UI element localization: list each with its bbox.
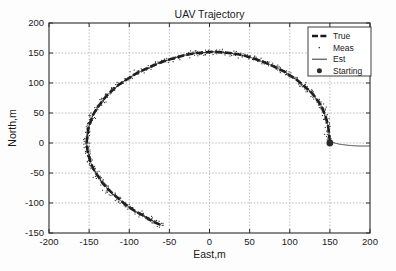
x-tick-label: 150	[322, 236, 338, 247]
measurement-point	[125, 202, 126, 203]
measurement-point	[327, 137, 328, 138]
measurement-point	[88, 160, 89, 161]
measurement-point	[233, 51, 234, 52]
measurement-point	[107, 185, 108, 186]
measurement-point	[94, 117, 95, 118]
measurement-point	[122, 83, 123, 84]
measurement-point	[168, 62, 169, 63]
measurement-point	[115, 194, 116, 195]
measurement-point	[152, 64, 153, 65]
measurement-point	[134, 70, 135, 71]
measurement-point	[89, 151, 90, 152]
x-tick-label: 0	[207, 236, 212, 247]
measurement-point	[92, 120, 93, 121]
measurement-point	[96, 107, 97, 108]
measurement-point	[278, 66, 279, 67]
measurement-point	[238, 57, 239, 58]
measurement-point	[320, 108, 321, 109]
measurement-point	[128, 79, 129, 80]
measurement-point	[261, 58, 262, 59]
measurement-point	[89, 146, 90, 147]
measurement-point	[93, 118, 94, 119]
measurement-point	[90, 165, 91, 166]
measurement-point	[285, 74, 286, 75]
measurement-point	[312, 90, 313, 91]
measurement-point	[261, 63, 262, 64]
measurement-point	[240, 53, 241, 54]
measurement-point	[161, 223, 162, 224]
y-axis-title: North,m	[6, 109, 18, 147]
measurement-point	[104, 102, 105, 103]
measurement-point	[329, 126, 330, 127]
measurement-point	[90, 168, 91, 169]
measurement-point	[106, 185, 107, 186]
measurement-point	[326, 131, 327, 132]
measurement-point	[277, 69, 278, 70]
measurement-point	[222, 51, 223, 52]
measurement-point	[107, 192, 108, 193]
measurement-point	[318, 105, 319, 106]
measurement-point	[307, 91, 308, 92]
y-tick-label: -50	[30, 167, 44, 178]
measurement-point	[215, 50, 216, 51]
measurement-point	[84, 147, 85, 148]
measurement-point	[277, 65, 278, 66]
measurement-point	[197, 55, 198, 56]
measurement-point	[91, 166, 92, 167]
measurement-point	[111, 88, 112, 89]
measurement-point	[89, 128, 90, 129]
legend-label-est: Est	[333, 54, 346, 64]
measurement-point	[109, 194, 110, 195]
measurement-point	[236, 51, 237, 52]
measurement-point	[242, 56, 243, 57]
measurement-point	[89, 131, 90, 132]
measurement-point	[286, 74, 287, 75]
measurement-point	[89, 132, 90, 133]
measurement-point	[146, 70, 147, 71]
measurement-point	[132, 207, 133, 208]
measurement-point	[114, 90, 115, 91]
measurement-point	[327, 139, 328, 140]
measurement-point	[305, 82, 306, 83]
measurement-point	[254, 56, 255, 57]
measurement-point	[164, 59, 165, 60]
x-tick-label: -50	[163, 236, 177, 247]
measurement-point	[179, 59, 180, 60]
measurement-point	[106, 186, 107, 187]
measurement-point	[307, 86, 308, 87]
measurement-point	[295, 77, 296, 78]
measurement-point	[326, 107, 327, 108]
y-tick-label: 150	[28, 47, 44, 58]
x-tick-label: -150	[80, 236, 99, 247]
measurement-point	[83, 144, 84, 145]
measurement-point	[165, 61, 166, 62]
measurement-point	[100, 185, 101, 186]
y-tick-label: -100	[25, 197, 44, 208]
measurement-point	[141, 68, 142, 69]
chart-legend[interactable]: TrueMeasEstStarting	[308, 27, 371, 76]
measurement-point	[222, 49, 223, 50]
legend-label-meas: Meas	[333, 43, 354, 53]
measurement-point	[120, 203, 121, 204]
measurement-point	[88, 142, 89, 143]
measurement-point	[159, 227, 160, 228]
measurement-point	[272, 63, 273, 64]
measurement-point	[84, 138, 85, 139]
measurement-point	[103, 180, 104, 181]
measurement-point	[130, 71, 131, 72]
y-tick-label: 200	[28, 17, 44, 28]
measurement-point	[310, 96, 311, 97]
measurement-point	[97, 105, 98, 106]
measurement-point	[99, 171, 100, 172]
measurement-point	[327, 114, 328, 115]
measurement-point	[306, 89, 307, 90]
measurement-point	[89, 116, 90, 117]
measurement-point	[219, 49, 220, 50]
measurement-point	[110, 90, 111, 91]
measurement-point	[155, 61, 156, 62]
measurement-point	[235, 55, 236, 56]
measurement-point	[195, 52, 196, 53]
measurement-point	[87, 125, 88, 126]
y-tick-label: 50	[33, 107, 44, 118]
measurement-point	[181, 56, 182, 57]
